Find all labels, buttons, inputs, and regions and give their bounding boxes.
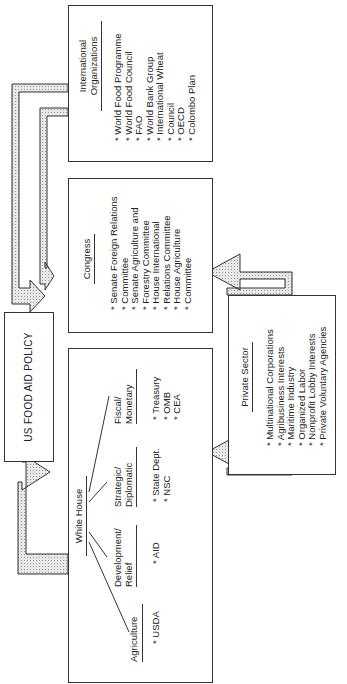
list-item: CEA bbox=[172, 377, 183, 420]
list-item: AID bbox=[151, 542, 162, 564]
private-sector-box: Private Sector Multinational Corporation… bbox=[228, 295, 336, 475]
policy-label: US FOOD AID POLICY bbox=[5, 313, 53, 461]
list-item: Multinational Corporations bbox=[265, 327, 276, 446]
private-sector-title: Private Sector bbox=[239, 342, 253, 412]
list-item: World Food Programme bbox=[113, 33, 124, 141]
list-item: House Agriculture bbox=[172, 196, 183, 310]
list-item: FAO bbox=[134, 33, 145, 141]
dept-fiscal-monetary: Fiscal/ Monetary bbox=[113, 369, 137, 424]
international-title: International Organizations bbox=[77, 21, 102, 111]
international-organizations-box: International Organizations World Food P… bbox=[68, 5, 213, 162]
list-item: Senate Foreign Relations bbox=[109, 196, 120, 310]
dept-strategic-list: State Dept. NSC bbox=[151, 448, 172, 502]
list-item: Private Voluntary Agencies bbox=[318, 327, 329, 446]
list-item: USDA bbox=[151, 611, 162, 644]
policy-box: US FOOD AID POLICY bbox=[4, 312, 54, 462]
list-item: Maritime Industry bbox=[286, 327, 297, 446]
dept-development-list: AID bbox=[151, 542, 162, 564]
private-sector-list: Multinational Corporations Agribusiness … bbox=[265, 327, 328, 446]
dept-agriculture: Agriculture bbox=[129, 604, 143, 662]
list-item: OECD bbox=[176, 33, 187, 141]
list-item: Colombo Plan bbox=[187, 33, 198, 141]
list-item: Nonprofit Lobby Interests bbox=[307, 327, 318, 446]
list-item: State Dept. bbox=[151, 448, 162, 502]
white-house-box: White House Agriculture USDA Development… bbox=[68, 348, 213, 683]
diagram-canvas: US FOOD AID POLICY International Organiz… bbox=[0, 0, 347, 684]
list-item: Senate Agriculture and bbox=[130, 196, 141, 310]
list-item: Treasury bbox=[151, 377, 162, 420]
congress-box: Congress Senate Foreign Relations Commit… bbox=[68, 178, 213, 333]
international-list: World Food Programme World Food Council … bbox=[113, 33, 197, 141]
congress-title: Congress bbox=[81, 234, 95, 284]
dept-agriculture-list: USDA bbox=[151, 611, 162, 644]
list-item: NSC bbox=[162, 448, 173, 502]
dept-fiscal-list: Treasury OMB CEA bbox=[151, 377, 183, 420]
dept-strategic-diplomatic: Strategic/ Diplomatic bbox=[113, 447, 137, 507]
list-item: Committee bbox=[183, 196, 194, 310]
list-item: House International bbox=[151, 196, 162, 310]
dept-development-relief: Development/ Relief bbox=[113, 525, 137, 587]
congress-list: Senate Foreign Relations Committee Senat… bbox=[109, 196, 193, 310]
list-item: International Wheat bbox=[155, 33, 166, 141]
arrow-congress-to-policy bbox=[40, 108, 68, 290]
